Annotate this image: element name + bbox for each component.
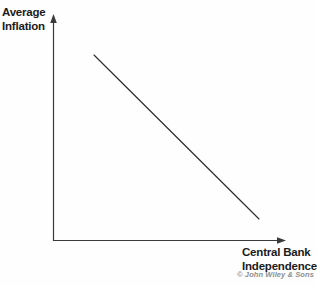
x-axis-label: Central Bank Independence [242, 245, 317, 273]
figure-container: Average Inflation Central Bank Independe… [0, 0, 317, 286]
x-axis-label-line1: Central Bank [242, 245, 317, 259]
x-axis-arrowhead-icon [277, 237, 286, 244]
y-axis-label-line1: Average [2, 5, 46, 19]
copyright-attribution: © John Wiley & Sons [237, 270, 314, 279]
data-series-line [94, 55, 259, 219]
y-axis-label-line2: Inflation [2, 19, 46, 33]
y-axis-label: Average Inflation [2, 5, 46, 33]
y-axis-arrowhead-icon [50, 14, 57, 23]
chart-plot-area [0, 0, 317, 286]
